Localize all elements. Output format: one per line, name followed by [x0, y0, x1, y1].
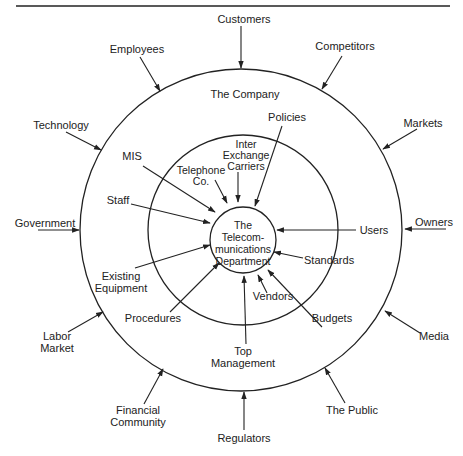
label-government: Government — [15, 217, 76, 229]
label-inter-exchange-carriers-3: Carriers — [227, 160, 264, 172]
arrow-standards — [274, 252, 303, 258]
label-top-management-1: Top — [234, 345, 252, 357]
label-existing-equipment-1: Existing — [102, 270, 141, 282]
label-the-public: The Public — [326, 404, 378, 416]
label-employees: Employees — [110, 43, 165, 55]
arrow-the-public — [325, 368, 345, 403]
center-label-line-1: The — [234, 219, 252, 231]
center-label-line-4: Department — [216, 255, 271, 267]
label-policies: Policies — [268, 111, 306, 123]
arrow-labor-market — [68, 312, 103, 332]
center-label-line-2: Telecom- — [222, 231, 265, 243]
label-owners: Owners — [415, 216, 453, 228]
label-staff: Staff — [107, 194, 130, 206]
label-vendors: Vendors — [253, 290, 294, 302]
label-labor-market-2: Market — [40, 342, 74, 354]
label-procedures: Procedures — [125, 312, 182, 324]
arrow-financial-community — [144, 369, 163, 404]
label-users: Users — [360, 224, 389, 236]
label-regulators: Regulators — [217, 432, 271, 444]
label-top-management-2: Management — [211, 357, 275, 369]
arrow-procedures — [170, 263, 219, 312]
arrow-media — [385, 311, 420, 333]
label-customers: Customers — [217, 13, 271, 25]
label-media: Media — [419, 330, 450, 342]
center-label-line-3: munications — [215, 243, 271, 255]
arrow-existing-equipment — [135, 245, 210, 268]
label-budgets: Budgets — [312, 312, 353, 324]
label-financial-community-1: Financial — [116, 404, 160, 416]
label-markets: Markets — [403, 117, 443, 129]
company-label: The Company — [210, 88, 280, 100]
label-telephone-co-2: Co. — [193, 175, 209, 187]
label-existing-equipment-2: Equipment — [95, 282, 148, 294]
label-labor-market-1: Labor — [43, 330, 71, 342]
arrow-top-management — [244, 276, 246, 344]
arrow-telephone-co — [215, 180, 227, 203]
arrow-markets — [383, 129, 417, 149]
arrow-staff — [131, 204, 210, 223]
label-technology: Technology — [33, 119, 89, 131]
label-competitors: Competitors — [315, 40, 375, 52]
label-financial-community-2: Community — [110, 416, 166, 428]
arrow-employees — [140, 57, 160, 91]
arrow-technology — [66, 132, 101, 150]
telecom-environment-diagram: The Telecom- munications Department The … — [0, 0, 463, 456]
arrow-competitors — [322, 56, 342, 89]
label-mis: MIS — [122, 150, 142, 162]
label-standards: Standards — [304, 254, 355, 266]
